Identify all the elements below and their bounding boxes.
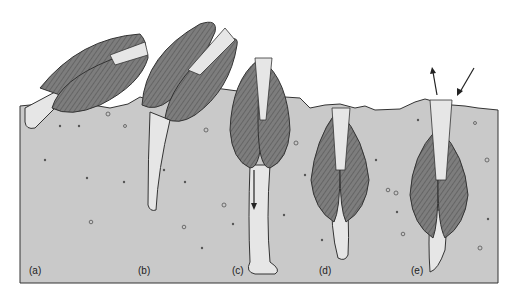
clam-burrowing-figure: (a) (b) (c) (d) (e) — [0, 0, 521, 301]
arrow-down-left-icon — [460, 68, 474, 92]
figure-canvas — [0, 0, 521, 301]
panel-label-a: (a) — [29, 265, 41, 276]
panel-label-d: (d) — [319, 265, 331, 276]
panel-label-e: (e) — [411, 265, 423, 276]
arrow-up-icon — [433, 72, 437, 95]
panel-label-c: (c) — [232, 265, 244, 276]
panel-label-b: (b) — [138, 265, 150, 276]
